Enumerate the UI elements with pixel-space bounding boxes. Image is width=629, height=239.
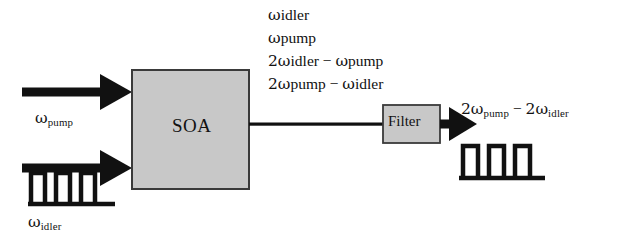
output-omega-2: 2ω (526, 100, 549, 118)
output-subscript-2: idler (548, 107, 569, 119)
annotation-3-omega-2: ω (335, 52, 348, 70)
idler-input-label: ωidler (28, 214, 62, 231)
annotation-2-subscript: pump (281, 29, 316, 46)
output-subscript: pump (484, 107, 510, 119)
annotation-1-subscript: idler (281, 6, 309, 23)
idler-input-arrow (22, 150, 132, 186)
pump-omega-symbol: ω (35, 109, 48, 127)
annotation-3-omega: 2ω (268, 52, 291, 70)
annotation-4-omega: 2ω (268, 75, 291, 93)
annotation-1-omega: ω (268, 6, 281, 24)
output-frequency-label: 2ωpump − 2ωidler (461, 101, 569, 118)
annotation-2-omega: ω (268, 29, 281, 47)
output-pulse-train (459, 146, 545, 178)
annotation-3-operator: − (319, 52, 336, 69)
pump-subscript: pump (48, 116, 74, 128)
idler-subscript: idler (41, 220, 62, 232)
pump-input-arrow (22, 74, 132, 110)
pump-input-label: ωpump (35, 110, 73, 127)
annotation-4-subscript-2: idler (355, 75, 383, 92)
diagram-canvas: SOA Filter ωpump ωidler ωidler ωpump 2ωi… (0, 0, 629, 239)
soa-block-label: SOA (172, 116, 212, 135)
annotation-4-operator: − (326, 75, 343, 92)
annotation-3-subscript-2: pump (348, 52, 383, 69)
soa-to-filter-connector (249, 123, 383, 126)
filter-block-label: Filter (388, 114, 421, 129)
annotation-3-subscript: idler (291, 52, 319, 69)
annotation-line-2: ωpump (268, 29, 383, 52)
annotation-line-3: 2ωidler − ωpump (268, 52, 383, 75)
output-operator: − (509, 100, 526, 117)
annotation-4-subscript: pump (291, 75, 326, 92)
annotation-line-1: ωidler (268, 6, 383, 29)
annotation-line-4: 2ωpump − ωidler (268, 75, 383, 98)
frequency-components-annotation: ωidler ωpump 2ωidler − ωpump 2ωpump − ωi… (268, 6, 383, 98)
output-omega: 2ω (461, 100, 484, 118)
annotation-4-omega-2: ω (342, 75, 355, 93)
idler-omega-symbol: ω (28, 213, 41, 231)
